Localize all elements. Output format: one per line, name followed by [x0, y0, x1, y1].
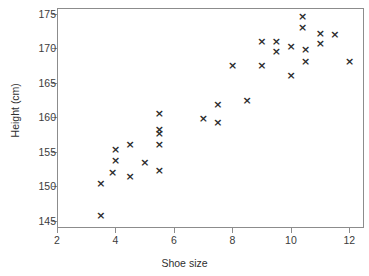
data-point: × — [108, 168, 117, 177]
y-tick-label: 150 — [38, 181, 56, 192]
data-point: × — [155, 125, 164, 134]
y-tick-label: 175 — [38, 9, 56, 20]
data-point: × — [111, 145, 120, 154]
x-tick-mark — [57, 228, 58, 233]
y-tick-label: 145 — [38, 216, 56, 227]
x-tick-label: 10 — [276, 235, 306, 246]
data-point: × — [140, 158, 149, 167]
data-point: × — [155, 166, 164, 175]
data-point: × — [155, 109, 164, 118]
data-point: × — [155, 140, 164, 149]
y-tick-label: 160 — [38, 112, 56, 123]
x-tick-label: 12 — [334, 235, 364, 246]
data-point: × — [298, 12, 307, 21]
x-tick-mark — [115, 228, 116, 233]
x-tick-mark — [232, 228, 233, 233]
data-point: × — [301, 57, 310, 66]
data-point: × — [316, 39, 325, 48]
data-point: × — [126, 172, 135, 181]
data-point: × — [213, 118, 222, 127]
data-point: × — [126, 140, 135, 149]
data-point: × — [257, 61, 266, 70]
data-point: × — [243, 96, 252, 105]
data-point: × — [96, 179, 105, 188]
data-point: × — [111, 156, 120, 165]
data-point: × — [272, 37, 281, 46]
data-point: × — [298, 23, 307, 32]
x-tick-mark — [174, 228, 175, 233]
x-axis-title: Shoe size — [0, 258, 369, 269]
x-tick-label: 4 — [100, 235, 130, 246]
y-tick-label: 170 — [38, 43, 56, 54]
data-point: × — [330, 30, 339, 39]
x-tick-label: 6 — [159, 235, 189, 246]
x-tick-mark — [291, 228, 292, 233]
data-point: × — [228, 61, 237, 70]
y-tick-label: 165 — [38, 78, 56, 89]
data-point: × — [272, 47, 281, 56]
x-tick-mark — [349, 228, 350, 233]
x-tick-label: 8 — [217, 235, 247, 246]
data-point: × — [257, 37, 266, 46]
data-point: × — [96, 211, 105, 220]
data-point: × — [213, 100, 222, 109]
data-point: × — [316, 29, 325, 38]
x-tick-label: 2 — [42, 235, 72, 246]
data-point: × — [345, 57, 354, 66]
y-axis-title: Height (cm) — [10, 50, 21, 170]
data-point: × — [199, 114, 208, 123]
data-point: × — [301, 45, 310, 54]
data-point: × — [286, 42, 295, 51]
y-tick-label: 155 — [38, 147, 56, 158]
scatter-chart-figure: 145150155160165170175 24681012 Height (c… — [0, 0, 369, 276]
data-point: × — [286, 71, 295, 80]
